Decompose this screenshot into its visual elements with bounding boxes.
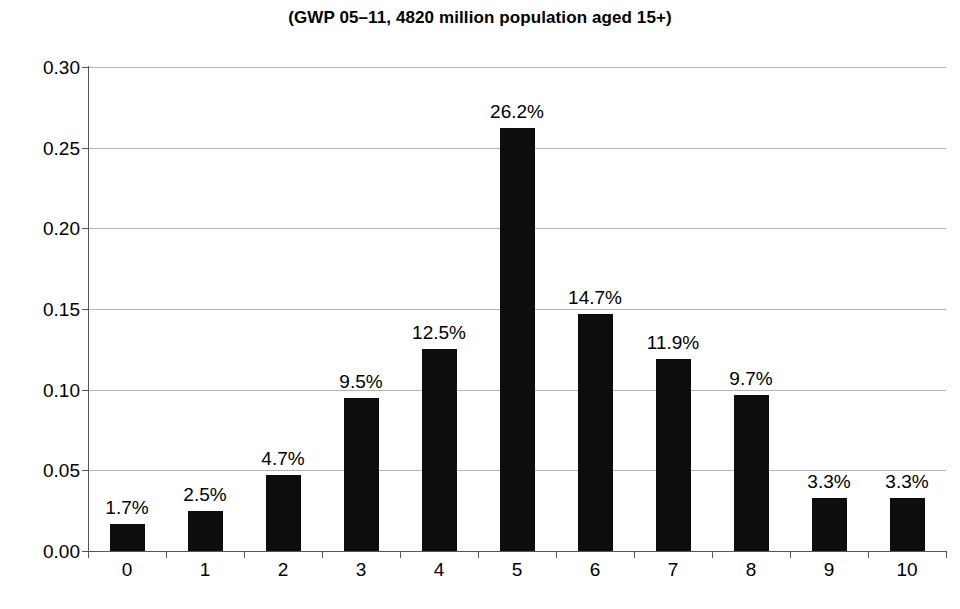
x-axis-tick-label: 4 [409, 560, 469, 579]
bar [344, 398, 379, 551]
y-axis-tick-labels: 0.000.050.100.150.200.250.30 [14, 67, 80, 551]
y-axis-tick-label: 0.20 [20, 219, 80, 238]
x-axis-baseline [88, 551, 946, 552]
bar-value-label: 3.3% [784, 472, 874, 491]
gridline [88, 67, 946, 68]
x-axis-tick [634, 551, 635, 558]
bar-value-label: 2.5% [160, 485, 250, 504]
x-axis-tick [556, 551, 557, 558]
x-axis-tick-labels: 012345678910 [88, 560, 946, 594]
x-axis-tick-label: 3 [331, 560, 391, 579]
bar-value-label: 12.5% [394, 323, 484, 342]
bar [266, 475, 301, 551]
bar-value-label: 14.7% [550, 288, 640, 307]
plot-area: 1.7%2.5%4.7%9.5%12.5%26.2%14.7%11.9%9.7%… [88, 67, 946, 551]
x-axis-tick [166, 551, 167, 558]
x-axis-tick-label: 7 [643, 560, 703, 579]
bar-value-label: 3.3% [862, 472, 952, 491]
bar [812, 498, 847, 551]
y-axis-tick-label: 0.10 [20, 380, 80, 399]
bar-value-label: 26.2% [472, 102, 562, 121]
x-axis-tick [712, 551, 713, 558]
y-axis-tick [82, 67, 89, 68]
bar-value-label: 1.7% [82, 498, 172, 517]
x-axis-tick-label: 8 [721, 560, 781, 579]
bar-value-label: 9.7% [706, 369, 796, 388]
y-axis-tick-label: 0.05 [20, 461, 80, 480]
bar [188, 511, 223, 551]
x-axis-tick [946, 551, 947, 558]
bar [890, 498, 925, 551]
x-axis-tick [244, 551, 245, 558]
y-axis-tick-label: 0.25 [20, 138, 80, 157]
y-axis-tick [82, 309, 89, 310]
x-axis-tick [88, 551, 89, 558]
bar-value-label: 11.9% [628, 333, 718, 352]
x-axis-tick [400, 551, 401, 558]
x-axis-tick-label: 10 [877, 560, 937, 579]
x-axis-tick [868, 551, 869, 558]
bar [656, 359, 691, 551]
x-axis-tick-label: 2 [253, 560, 313, 579]
x-axis-tick [478, 551, 479, 558]
y-axis-tick-label: 0.15 [20, 300, 80, 319]
y-axis-tick [82, 390, 89, 391]
x-axis-tick-label: 9 [799, 560, 859, 579]
y-axis-tick [82, 148, 89, 149]
bar [734, 395, 769, 551]
y-axis-tick [82, 228, 89, 229]
bar-value-label: 4.7% [238, 449, 328, 468]
y-axis-tick [82, 470, 89, 471]
y-axis-tick-label: 0.00 [20, 542, 80, 561]
bar [578, 314, 613, 551]
x-axis-tick-label: 0 [97, 560, 157, 579]
bar-chart: (GWP 05–11, 4820 million population aged… [0, 0, 960, 609]
bar [422, 349, 457, 551]
x-axis-tick-label: 6 [565, 560, 625, 579]
x-axis-tick [322, 551, 323, 558]
x-axis-tick-label: 1 [175, 560, 235, 579]
x-axis-tick-label: 5 [487, 560, 547, 579]
x-axis-tick [790, 551, 791, 558]
bar-value-label: 9.5% [316, 372, 406, 391]
bar [110, 524, 145, 551]
chart-title: (GWP 05–11, 4820 million population aged… [0, 8, 960, 28]
bar [500, 128, 535, 551]
y-axis-tick-label: 0.30 [20, 58, 80, 77]
